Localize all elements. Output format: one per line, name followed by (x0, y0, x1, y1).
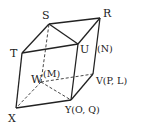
edge-s-t (22, 24, 49, 53)
label-w: W (31, 73, 43, 86)
edge-s-r (49, 18, 100, 24)
label-t: T (10, 47, 18, 60)
edge-x-y (16, 100, 71, 108)
label-r: R (103, 7, 112, 20)
label-v: V(P, L) (95, 75, 127, 86)
label-m: (M) (43, 68, 60, 79)
edge-s-u (49, 24, 78, 44)
label-x: X (8, 112, 16, 125)
vertex-labels: S R T U (N) W (M) V(P, L) X Y(O, Q) (8, 7, 127, 125)
label-u: U (80, 43, 89, 56)
edge-w-y (41, 82, 71, 100)
edge-t-x (16, 53, 22, 108)
label-y: Y(O, Q) (64, 104, 100, 115)
label-s: S (42, 9, 50, 22)
hidden-edges (16, 24, 93, 108)
parallelepiped-diagram: S R T U (N) W (M) V(P, L) X Y(O, Q) (0, 0, 142, 134)
edge-t-u (22, 44, 78, 53)
label-n: (N) (97, 43, 113, 54)
edge-u-y (71, 44, 78, 100)
